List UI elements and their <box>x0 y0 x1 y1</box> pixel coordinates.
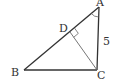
segment-cd-altitude <box>70 32 97 70</box>
side-label-ac: 5 <box>103 35 110 48</box>
label-b: B <box>11 66 19 79</box>
angle-arc-a <box>91 14 98 18</box>
triangle-diagram: A D B C 5 <box>0 0 117 82</box>
segment-ca <box>97 7 99 70</box>
segment-ab <box>24 7 99 70</box>
label-d: D <box>59 22 68 35</box>
label-c: C <box>97 69 105 82</box>
label-a: A <box>95 0 105 9</box>
right-angle-mark-d <box>74 28 79 37</box>
